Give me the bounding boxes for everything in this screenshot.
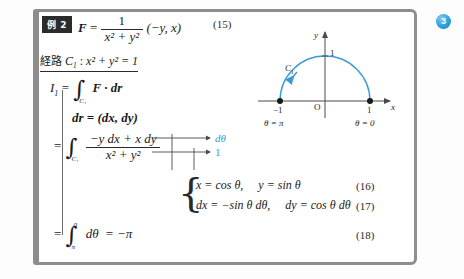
integral-1-lower-limit: C₁ [79, 97, 86, 105]
path-definition: 経路 C1 : x² + y² = 1 [40, 52, 138, 72]
origin-label: O [314, 102, 321, 112]
integral-line-1: I1 = ∫C₁ F · dr [50, 80, 122, 98]
annotation-one: 1 [215, 146, 221, 158]
substitution-dx: dx = −sin θ dθ, [196, 198, 270, 212]
integral-symbol-2: ∫C₁ [66, 138, 78, 156]
integrand-3: dθ [86, 226, 99, 241]
substitution-line-1: x = cos θ, y = sin θ [196, 178, 301, 193]
field-definition: F = 1 x² + y² (−y, x) [78, 14, 181, 44]
integral-line-2: = ∫C₁ −y dx + x dy x² + y² [54, 132, 160, 162]
theta-label-left: θ = π [264, 118, 284, 128]
integral-3-upper-limit: 0 [74, 221, 78, 229]
substitution-x: x = cos θ, [196, 178, 243, 192]
integral-equals-2: = [54, 138, 61, 153]
x-tick-label-right: 1 [367, 105, 372, 115]
semicircle-diagram: y x O 1 −1 1 C1 θ = π θ = 0 [250, 18, 400, 133]
eqnum-15: (15) [213, 18, 231, 30]
path-curve-name: C [65, 54, 73, 68]
path-label: 経路 [40, 55, 62, 68]
integral-equals-3: = [54, 226, 61, 241]
y-tick-label: 1 [330, 48, 335, 58]
integral-symbol-1: ∫C₁ [73, 80, 85, 98]
endpoint-right-dot [367, 98, 373, 104]
axis-label-y: y [314, 30, 318, 40]
field-frac-numerator: 1 [101, 14, 144, 29]
integral-2-lower-limit: C₁ [72, 155, 79, 163]
path-curve-subscript: 1 [73, 61, 77, 70]
x-tick-label-left: −1 [273, 105, 283, 115]
field-vector: (−y, x) [146, 20, 181, 35]
integral-line-3: = ∫π0 dθ = −π [54, 226, 132, 244]
path-equation: x² + y² = 1 [86, 54, 138, 68]
field-fraction: 1 x² + y² [101, 14, 144, 44]
example-label-badge: 例 2 [42, 16, 72, 33]
left-accent-bar [33, 9, 39, 265]
integral-symbol-3: ∫π0 [66, 226, 78, 244]
substitution-y: y = sin θ [258, 178, 300, 192]
differential-line: dr = (dx, dy) [72, 110, 138, 126]
integrand-1: F · dr [92, 80, 122, 95]
field-frac-denominator: x² + y² [101, 29, 144, 45]
eqnum-18: (18) [356, 229, 374, 241]
substitution-dy: dy = cos θ dθ [285, 198, 350, 212]
integral-3-lower-limit: π [72, 243, 76, 251]
derivation-vertical-rule [62, 90, 63, 235]
endpoint-left-dot [277, 98, 283, 104]
curve-label: C1 [285, 63, 294, 75]
substitution-line-2: dx = −sin θ dθ, dy = cos θ dθ [196, 198, 351, 213]
theta-label-right: θ = 0 [355, 118, 375, 128]
page-canvas: 3 例 2 F = 1 x² + y² (−y, x) (15) 経路 C1 :… [0, 0, 464, 279]
field-equals: = [90, 20, 97, 35]
path-colon: : [80, 54, 83, 68]
eqnum-17: (17) [356, 200, 374, 212]
semicircle-svg [250, 18, 400, 133]
axis-label-x: x [391, 102, 395, 112]
annotation-dtheta: dθ [215, 132, 226, 144]
eqnum-16: (16) [356, 180, 374, 192]
integral-lhs-subscript: 1 [54, 89, 58, 98]
final-result: = −π [105, 226, 132, 241]
differential-expression: dr = (dx, dy) [72, 110, 138, 125]
field-lhs: F [78, 20, 87, 35]
page-number-badge[interactable]: 3 [436, 14, 451, 29]
